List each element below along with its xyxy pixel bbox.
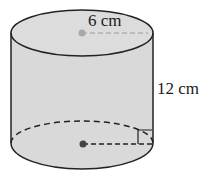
cylinder-diagram: 6 cm 12 cm [0, 0, 216, 189]
height-label: 12 cm [157, 80, 199, 97]
bottom-center-dot [80, 141, 87, 148]
radius-label: 6 cm [88, 12, 122, 29]
top-center-dot [79, 30, 86, 37]
